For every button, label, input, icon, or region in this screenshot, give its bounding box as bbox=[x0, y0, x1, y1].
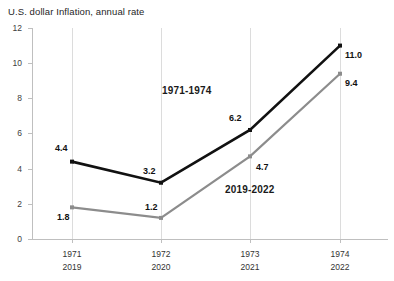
value-label-gray-2022: 9.4 bbox=[345, 78, 358, 88]
x-axis-label-top-2: 1972 bbox=[131, 248, 191, 261]
y-tick-mark bbox=[28, 133, 32, 134]
value-label-gray-2019: 1.8 bbox=[57, 212, 70, 222]
y-tick-mark bbox=[28, 204, 32, 205]
value-label-black-1974: 11.0 bbox=[345, 50, 362, 60]
y-axis-label-8: 8 bbox=[4, 93, 22, 103]
y-tick-mark bbox=[28, 169, 32, 170]
gridline-1972 bbox=[161, 28, 162, 239]
x-axis-label-top-1: 1971 bbox=[42, 248, 102, 261]
y-axis-label-2: 2 bbox=[4, 199, 22, 209]
y-tick-mark bbox=[28, 63, 32, 64]
chart-title: U.S. dollar Inflation, annual rate bbox=[8, 6, 144, 17]
y-axis-label-10: 10 bbox=[4, 58, 22, 68]
annotation-1971-1974: 1971-1974 bbox=[162, 85, 212, 96]
value-label-black-1971: 4.4 bbox=[55, 143, 68, 153]
x-axis-label-top-4: 1974 bbox=[310, 248, 370, 261]
x-tick-mark bbox=[72, 239, 73, 243]
x-axis-label-group-2: 1972 2020 bbox=[131, 248, 191, 273]
x-tick-mark bbox=[340, 239, 341, 243]
x-axis-label-bottom-1: 2019 bbox=[42, 261, 102, 274]
y-axis-line bbox=[32, 28, 33, 239]
x-tick-mark bbox=[250, 239, 251, 243]
gridline-1973 bbox=[250, 28, 251, 239]
y-axis-label-12: 12 bbox=[4, 23, 22, 33]
x-axis-label-bottom-2: 2020 bbox=[131, 261, 191, 274]
y-axis-label-0: 0 bbox=[4, 234, 22, 244]
x-axis-line bbox=[32, 239, 388, 240]
x-axis-label-bottom-3: 2021 bbox=[220, 261, 280, 274]
x-axis-label-top-3: 1973 bbox=[220, 248, 280, 261]
y-axis-label-6: 6 bbox=[4, 128, 22, 138]
x-axis-label-group-4: 1974 2022 bbox=[310, 248, 370, 273]
value-label-gray-2021: 4.7 bbox=[256, 162, 269, 172]
gridline-1974 bbox=[340, 28, 341, 239]
value-label-gray-2020: 1.2 bbox=[145, 202, 158, 212]
x-axis-label-group-3: 1973 2021 bbox=[220, 248, 280, 273]
x-tick-mark bbox=[161, 239, 162, 243]
x-axis-label-group-1: 1971 2019 bbox=[42, 248, 102, 273]
inflation-line-chart: U.S. dollar Inflation, annual rate 12 10… bbox=[0, 0, 394, 281]
line-series-1971-1974 bbox=[72, 46, 340, 183]
markers-series-1971-1974 bbox=[70, 44, 342, 185]
y-tick-mark bbox=[28, 239, 32, 240]
y-tick-mark bbox=[28, 28, 32, 29]
x-axis-label-bottom-4: 2022 bbox=[310, 261, 370, 274]
value-label-black-1972: 3.2 bbox=[143, 166, 156, 176]
value-label-black-1973: 6.2 bbox=[229, 113, 242, 123]
annotation-2019-2022: 2019-2022 bbox=[225, 184, 275, 195]
y-axis-label-4: 4 bbox=[4, 164, 22, 174]
y-tick-mark bbox=[28, 98, 32, 99]
gridline-1971 bbox=[72, 28, 73, 239]
